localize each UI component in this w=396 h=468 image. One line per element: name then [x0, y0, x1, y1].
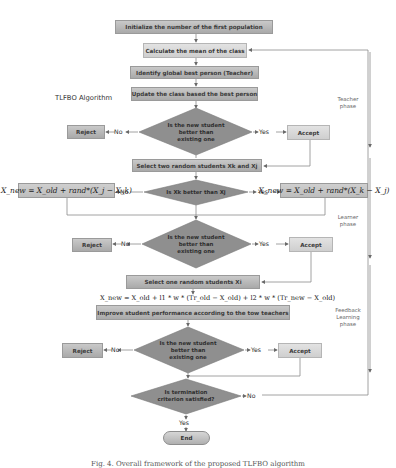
decision-5-line-1: Is termination	[146, 389, 226, 396]
no-label-1: No	[114, 128, 122, 135]
decision-5-line-2: criterion satisfied?	[146, 396, 226, 403]
decision-3-label: Is the new student better than existing …	[156, 234, 236, 255]
yes-label-4: Yes	[251, 346, 261, 353]
improve-performance-box: Improve student performance according to…	[96, 305, 290, 320]
decision-3-line-3: existing one	[156, 248, 236, 255]
decision-4-label: Is the new student better than existing …	[148, 340, 228, 361]
decision-3-line-2: better than	[156, 241, 236, 248]
select-one-student-box: Select one random students Xi	[126, 275, 260, 289]
decision-4-line-1: Is the new student	[148, 340, 228, 347]
decision-1-line-3: existing one	[156, 136, 236, 143]
yes-label-3: Yes	[259, 240, 269, 247]
teacher-phase-line-2: phase	[328, 103, 368, 110]
feedback-phase-line-3: phase	[328, 321, 368, 328]
teacher-phase-label: Teacher phase	[328, 96, 368, 110]
decision-4-line-2: better than	[148, 347, 228, 354]
learner-phase-line-1: Learner	[328, 214, 368, 221]
decision-1-line-1: Is the new student	[156, 122, 236, 129]
feedback-formula: X_new = X_old + l1 * w * (Tr_old − X_old…	[100, 294, 335, 302]
accept-box-3: Accept	[278, 343, 322, 358]
no-label-5: No	[247, 392, 255, 399]
reject-box-1: Reject	[67, 125, 105, 139]
no-label-2: No	[120, 188, 128, 195]
decision-4-line-3: existing one	[148, 354, 228, 361]
flowchart: Initialize the number of the first popul…	[0, 0, 396, 468]
yes-label-1: Yes	[259, 128, 269, 135]
end-terminal: End	[163, 431, 210, 445]
no-label-4: No	[111, 346, 119, 353]
teacher-phase-line-1: Teacher	[328, 96, 368, 103]
decision-2-label: Is Xk better than Xj	[156, 189, 236, 196]
diagram-title: TLFBO Algorithm	[55, 94, 112, 102]
learner-phase-label: Learner phase	[328, 214, 368, 228]
identify-teacher-box: Identify global best person (Teacher)	[130, 66, 259, 79]
decision-1-label: Is the new student better than existing …	[156, 122, 236, 143]
decision-3-line-1: Is the new student	[156, 234, 236, 241]
calculate-mean-box: Calculate the mean of the class	[143, 43, 247, 58]
update-class-box: Update the class based the best person	[131, 87, 258, 101]
select-two-students-box: Select two random students Xk and Xj	[132, 159, 262, 172]
init-population-box: Initialize the number of the first popul…	[115, 20, 273, 34]
feedback-phase-label: Feedback Learning phase	[328, 307, 368, 328]
decision-1-line-2: better than	[156, 129, 236, 136]
learner-phase-line-2: phase	[328, 221, 368, 228]
accept-box-2: Accept	[289, 237, 333, 252]
decision-5-label: Is termination criterion satisfied?	[146, 389, 226, 403]
accept-box-1: Accept	[287, 125, 330, 140]
feedback-phase-line-1: Feedback	[328, 307, 368, 314]
formula-right-box: X_new = X_old + rand*(X_k − X_j)	[280, 183, 368, 198]
yes-label-5: Yes	[179, 419, 189, 426]
reject-box-2: Reject	[72, 238, 112, 252]
feedback-phase-line-2: Learning	[328, 314, 368, 321]
reject-box-3: Reject	[62, 343, 103, 358]
no-label-3: No	[121, 240, 129, 247]
figure-caption: Fig. 4. Overall framework of the propose…	[0, 460, 396, 468]
formula-left-box: X_new = X_old + rand*(X_j − X_k)	[18, 183, 115, 198]
